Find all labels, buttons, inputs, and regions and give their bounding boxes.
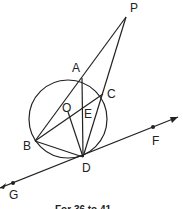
point-G-dot [11, 181, 15, 185]
line-PB [35, 17, 126, 141]
arrow-head-right [170, 117, 178, 123]
label-O: O [62, 101, 71, 115]
point-F-dot [151, 125, 155, 129]
geometry-diagram: P A C O E B D F G For 36 to 41 [0, 0, 183, 209]
line-AD [82, 78, 83, 157]
label-A: A [72, 61, 80, 75]
figure-caption: For 36 to 41 [55, 204, 112, 209]
label-G: G [9, 188, 18, 202]
label-C: C [107, 87, 116, 101]
line-OD [68, 112, 83, 157]
label-E: E [84, 107, 92, 121]
label-D: D [82, 161, 91, 175]
circle [29, 80, 107, 158]
label-F: F [152, 134, 159, 148]
label-B: B [23, 139, 31, 153]
label-P: P [130, 1, 138, 15]
